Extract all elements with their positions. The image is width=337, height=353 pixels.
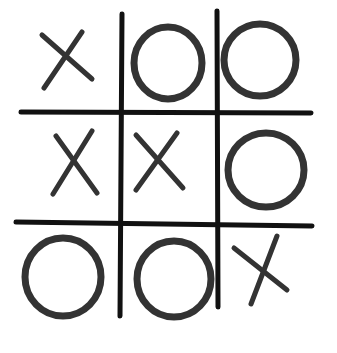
x-mark-icon: [136, 133, 183, 190]
o-mark-icon: [228, 133, 304, 207]
o-stroke: [224, 24, 296, 96]
x-stroke: [251, 236, 277, 304]
vertical-line-2: [217, 11, 218, 307]
o-stroke: [137, 241, 211, 317]
o-stroke: [228, 133, 304, 207]
x-stroke: [56, 136, 97, 193]
x-mark-icon: [234, 236, 287, 304]
o-mark-icon: [224, 24, 296, 96]
x-mark-icon: [42, 32, 92, 88]
horizontal-line-2: [16, 222, 312, 226]
x-mark-icon: [53, 131, 97, 194]
vertical-line-1: [120, 14, 122, 316]
o-mark-icon: [134, 27, 202, 99]
o-mark-icon: [25, 238, 101, 316]
tic-tac-toe-board: Tic-tac-toe board (hand drawn): [0, 0, 337, 353]
o-stroke: [134, 27, 202, 99]
marks: [25, 24, 304, 317]
board-drawing: [0, 0, 337, 353]
o-mark-icon: [137, 241, 211, 317]
horizontal-line-1: [21, 112, 311, 113]
o-stroke: [25, 238, 101, 316]
